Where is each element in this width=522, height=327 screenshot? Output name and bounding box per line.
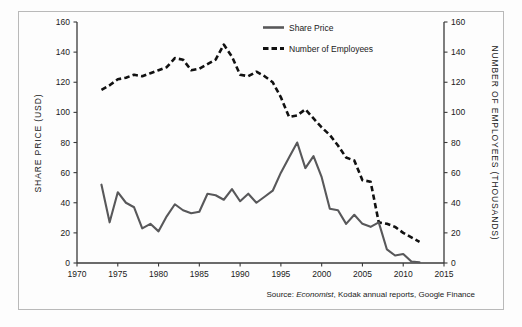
left-tick-label-40: 40 bbox=[61, 198, 71, 208]
source-emphasis: Economist bbox=[296, 290, 334, 299]
right-tick-label-160: 160 bbox=[451, 17, 465, 27]
source-prefix: Source: bbox=[266, 290, 296, 299]
chart-figure: 020406080100120140160 020406080100120140… bbox=[0, 0, 522, 327]
x-tick-label-2015: 2015 bbox=[435, 269, 454, 279]
right-tick-label-80: 80 bbox=[451, 138, 461, 148]
x-axis-tick-labels: 1970197519801985199019952000200520102015 bbox=[68, 269, 454, 279]
right-tick-label-140: 140 bbox=[451, 47, 465, 57]
left-tick-label-120: 120 bbox=[56, 77, 70, 87]
series-number-of-employees bbox=[101, 45, 419, 242]
x-tick-label-1980: 1980 bbox=[149, 269, 168, 279]
x-tick-label-1990: 1990 bbox=[231, 269, 250, 279]
right-tick-label-60: 60 bbox=[451, 168, 461, 178]
right-tick-label-100: 100 bbox=[451, 107, 465, 117]
x-tick-label-1995: 1995 bbox=[271, 269, 290, 279]
legend-label-number-of-employees: Number of Employees bbox=[289, 44, 373, 54]
left-tick-label-100: 100 bbox=[56, 107, 70, 117]
left-axis-tick-labels: 020406080100120140160 bbox=[56, 17, 70, 268]
x-tick-label-2010: 2010 bbox=[394, 269, 413, 279]
left-tick-label-140: 140 bbox=[56, 47, 70, 57]
right-axis-title: NUMBER OF EMPLOYEES (THOUSANDS) bbox=[490, 45, 500, 240]
right-tick-label-0: 0 bbox=[451, 258, 456, 268]
x-tick-label-2000: 2000 bbox=[312, 269, 331, 279]
legend-label-share-price: Share Price bbox=[289, 23, 334, 33]
x-tick-label-1975: 1975 bbox=[108, 269, 127, 279]
right-tick-label-120: 120 bbox=[451, 77, 465, 87]
right-axis-tick-labels: 020406080100120140160 bbox=[451, 17, 465, 268]
source-suffix: , Kodak annual reports, Google Finance bbox=[334, 290, 476, 299]
left-tick-label-80: 80 bbox=[61, 138, 71, 148]
left-axis-title: SHARE PRICE (USD) bbox=[33, 94, 43, 193]
left-tick-label-20: 20 bbox=[61, 228, 71, 238]
left-tick-label-0: 0 bbox=[65, 258, 70, 268]
chart-legend: Share Price Number of Employees bbox=[263, 23, 373, 54]
chart-canvas: 020406080100120140160 020406080100120140… bbox=[0, 0, 522, 327]
x-tick-label-1970: 1970 bbox=[68, 269, 87, 279]
right-tick-label-40: 40 bbox=[451, 198, 461, 208]
x-tick-label-1985: 1985 bbox=[190, 269, 209, 279]
series-share-price bbox=[101, 143, 419, 263]
x-tick-label-2005: 2005 bbox=[353, 269, 372, 279]
left-tick-label-60: 60 bbox=[61, 168, 71, 178]
left-tick-label-160: 160 bbox=[56, 17, 70, 27]
source-note: Source: Economist, Kodak annual reports,… bbox=[266, 290, 475, 299]
right-tick-label-20: 20 bbox=[451, 228, 461, 238]
